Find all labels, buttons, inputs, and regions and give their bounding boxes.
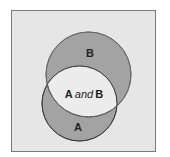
intersection-label-and: and bbox=[75, 88, 94, 100]
intersection-label: AandB bbox=[65, 88, 103, 100]
venn-diagram: B A AandB bbox=[0, 0, 170, 157]
set-b-label: B bbox=[86, 47, 94, 59]
intersection-label-b: B bbox=[95, 88, 103, 100]
intersection-label-a: A bbox=[65, 88, 73, 100]
set-a-label: A bbox=[74, 121, 82, 133]
